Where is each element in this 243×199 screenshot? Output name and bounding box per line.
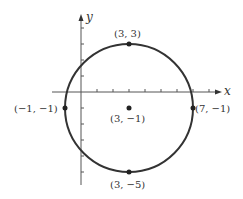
x-axis-label: x	[224, 85, 231, 97]
point-top	[127, 42, 132, 47]
label-center: (3, −1)	[110, 114, 145, 124]
label-left: (−1, −1)	[14, 104, 58, 114]
x-axis-arrow-icon	[215, 90, 222, 95]
point-center	[127, 106, 132, 111]
y-axis-arrow-icon	[79, 14, 84, 21]
label-top: (3, 3)	[114, 29, 141, 39]
label-right: (7, −1)	[195, 104, 230, 114]
label-bottom: (3, −5)	[110, 180, 145, 190]
y-axis-label: y	[86, 11, 93, 23]
point-left	[63, 106, 68, 111]
point-bottom	[127, 170, 132, 175]
